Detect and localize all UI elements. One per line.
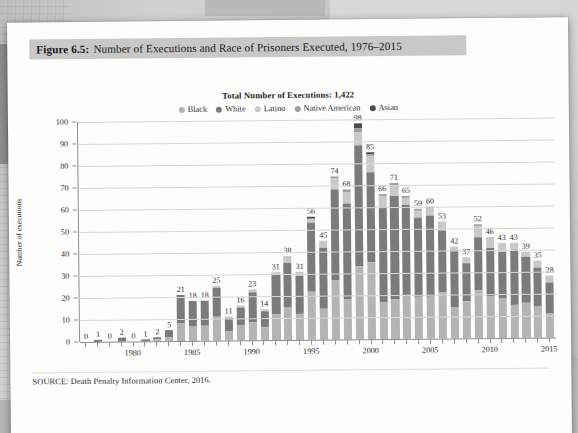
bar-segment-black bbox=[451, 308, 459, 339]
x-axis-tick-mark bbox=[85, 342, 86, 347]
legend-dot-icon bbox=[255, 106, 261, 112]
bar-segment-white bbox=[474, 237, 483, 290]
bar-value-label: 5 bbox=[167, 320, 171, 329]
bar-segment-white bbox=[307, 223, 316, 291]
y-axis-tick-mark bbox=[72, 122, 76, 123]
bar-segment-black bbox=[225, 332, 233, 341]
stacked-bar bbox=[438, 222, 447, 339]
bar-segment-white bbox=[272, 274, 280, 314]
legend-label: Native American bbox=[303, 103, 360, 113]
x-axis-tick-label: 2010 bbox=[481, 345, 497, 354]
bar-value-label: 2 bbox=[155, 327, 159, 336]
bar-segment-black bbox=[201, 325, 209, 340]
x-axis-tick-mark bbox=[216, 341, 217, 346]
bar-value-label: 0 bbox=[108, 332, 112, 341]
x-axis-tick-mark bbox=[501, 338, 502, 343]
x-axis-tick-mark bbox=[442, 339, 443, 344]
bar-segment-latino bbox=[330, 179, 338, 190]
bar-segment-black bbox=[213, 316, 221, 340]
legend-item-native-american: Native American bbox=[294, 103, 360, 113]
x-axis-tick-mark bbox=[275, 340, 276, 345]
bar-segment-white bbox=[212, 288, 220, 317]
x-axis-tick-mark bbox=[299, 340, 300, 345]
stacked-bar bbox=[272, 272, 281, 340]
figure-number: Figure 6.5: bbox=[36, 43, 89, 56]
bar-segment-white bbox=[296, 276, 304, 313]
chart-title: Total Number of Executions: 1,422 bbox=[8, 87, 569, 102]
x-axis-tick-label: 2000 bbox=[362, 346, 378, 355]
stacked-bar bbox=[354, 124, 364, 340]
x-axis-tick-mark bbox=[180, 341, 181, 346]
y-axis-tick-mark bbox=[74, 320, 78, 321]
bar-segment-black bbox=[415, 297, 423, 339]
stacked-bar bbox=[284, 256, 293, 340]
bar-value-label: 31 bbox=[296, 262, 304, 271]
bar-segment-black bbox=[344, 300, 352, 340]
x-axis-tick-mark bbox=[525, 338, 526, 343]
y-axis-tick-label: 100 bbox=[56, 118, 68, 127]
x-axis-tick-label: 1990 bbox=[243, 347, 259, 356]
x-axis-tick-label: 2005 bbox=[422, 346, 438, 355]
bar-value-label: 53 bbox=[438, 212, 446, 221]
bar-segment-black bbox=[189, 326, 197, 341]
source-divider bbox=[32, 368, 549, 374]
legend-item-latino: Latino bbox=[255, 104, 286, 113]
x-axis-tick-mark bbox=[109, 342, 110, 347]
stacked-bar bbox=[474, 224, 483, 338]
backdrop-strip-top-left bbox=[205, 0, 325, 16]
bar-value-label: 23 bbox=[248, 280, 256, 289]
y-axis-tick-label: 60 bbox=[61, 206, 69, 215]
x-axis-tick-mark bbox=[121, 342, 122, 347]
stacked-bar bbox=[510, 243, 519, 338]
bar-segment-black bbox=[379, 302, 387, 339]
bar-segment-black bbox=[486, 296, 494, 338]
legend-item-black: Black bbox=[179, 105, 208, 114]
x-axis-tick-mark bbox=[156, 341, 157, 346]
bar-segment-black bbox=[237, 325, 245, 340]
x-axis-tick-mark bbox=[323, 340, 324, 345]
bar-segment-latino bbox=[366, 157, 374, 172]
stacked-bar bbox=[546, 276, 555, 338]
bar-segment-black bbox=[498, 298, 506, 338]
stacked-bar bbox=[498, 243, 507, 338]
y-axis-tick-mark bbox=[74, 342, 78, 343]
legend-label: Black bbox=[188, 105, 208, 114]
y-axis-tick-mark bbox=[73, 188, 77, 189]
bar-segment-white bbox=[331, 190, 340, 280]
bar-segment-white bbox=[189, 301, 197, 325]
x-axis-tick-mark bbox=[204, 341, 205, 346]
legend-dot-icon bbox=[216, 106, 222, 112]
bar-segment-white bbox=[402, 205, 411, 295]
stacked-bar bbox=[260, 309, 268, 340]
bar-segment-latino bbox=[378, 196, 386, 207]
stacked-bar bbox=[462, 257, 471, 338]
x-axis-tick-mark bbox=[347, 339, 348, 344]
y-axis-tick-label: 80 bbox=[60, 162, 68, 171]
bar-value-label: 45 bbox=[319, 231, 327, 240]
bar-segment-black bbox=[546, 313, 554, 337]
y-axis-tick-mark bbox=[73, 254, 77, 255]
x-axis-tick-mark bbox=[466, 338, 467, 343]
bar-segment-white bbox=[390, 196, 399, 299]
y-axis-tick-label: 50 bbox=[61, 228, 69, 237]
bar-value-label: 0 bbox=[84, 332, 88, 341]
stacked-bar bbox=[189, 301, 197, 341]
y-axis-tick-label: 90 bbox=[60, 140, 68, 149]
legend-item-white: White bbox=[216, 104, 246, 113]
y-axis-tick-mark bbox=[72, 166, 76, 167]
bar-value-label: 14 bbox=[260, 299, 268, 308]
bar-segment-black bbox=[177, 323, 185, 341]
bar-segment-white bbox=[510, 250, 519, 305]
plot-area: Number of executions 0102030405060708090… bbox=[46, 117, 556, 362]
x-axis-tick-mark bbox=[240, 340, 241, 345]
bar-segment-black bbox=[331, 280, 340, 339]
x-axis-tick-mark bbox=[228, 341, 229, 346]
bar-value-label: 98 bbox=[354, 114, 362, 123]
x-axis-tick-mark bbox=[133, 342, 134, 347]
stacked-bar bbox=[330, 177, 340, 340]
bar-value-label: 18 bbox=[189, 291, 197, 300]
x-axis-tick-label: 2015 bbox=[541, 344, 557, 353]
bar-value-label: 68 bbox=[342, 180, 350, 189]
stacked-bar bbox=[486, 237, 495, 338]
stacked-bar bbox=[366, 152, 376, 339]
